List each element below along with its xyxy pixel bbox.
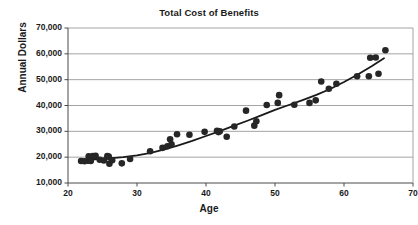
trendline — [82, 58, 384, 160]
gridlines — [68, 28, 413, 157]
data-points — [78, 47, 389, 167]
plot-area — [0, 0, 418, 225]
axis-ticks — [65, 28, 414, 187]
chart-container: Total Cost of Benefits Annual Dollars Ag… — [0, 0, 418, 225]
